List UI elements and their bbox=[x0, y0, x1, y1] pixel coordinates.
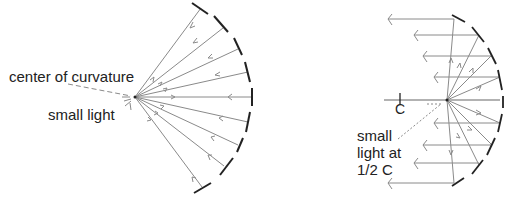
right-rays-in bbox=[447, 19, 500, 183]
right-light-label-line3: 1/2 C bbox=[357, 162, 393, 178]
center-of-curvature-label: center of curvature bbox=[9, 69, 134, 85]
center-leader-line bbox=[68, 84, 131, 96]
small-light-icon bbox=[122, 97, 131, 110]
left-diagram bbox=[68, 3, 252, 193]
c-label: C bbox=[395, 101, 405, 117]
focus-light-point bbox=[446, 99, 449, 102]
small-light-label: small light bbox=[48, 107, 115, 123]
right-light-label-line1: small bbox=[357, 128, 392, 144]
right-light-label-line2: light at bbox=[357, 145, 401, 161]
left-rays bbox=[135, 8, 252, 187]
light-point bbox=[134, 96, 137, 99]
mirror-diagrams bbox=[0, 0, 509, 206]
